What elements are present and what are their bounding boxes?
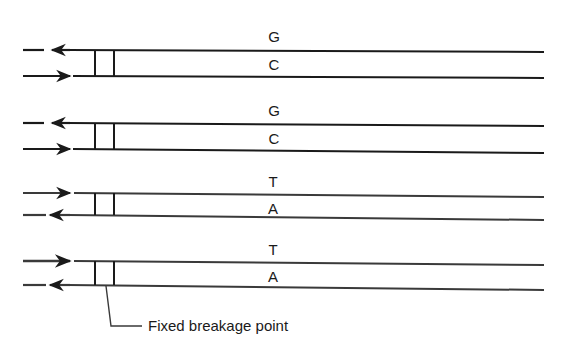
breakage-point-label: Fixed breakage point (148, 317, 289, 334)
strand-line (73, 149, 544, 153)
top-base-label: T (268, 173, 277, 190)
bottom-base-label: A (268, 200, 278, 217)
strand-line (68, 285, 544, 290)
strand-pair-3: T A (23, 173, 544, 220)
bottom-strand (23, 149, 544, 153)
strand-line (74, 193, 544, 197)
top-base-label: G (268, 28, 280, 45)
bottom-strand (23, 76, 544, 78)
bottom-base-label: C (269, 56, 280, 73)
strand-line (68, 50, 544, 52)
top-strand (23, 123, 544, 126)
bottom-base-label: C (269, 130, 280, 147)
dna-breakage-diagram: G C G C T A (0, 0, 568, 356)
top-strand (23, 193, 544, 197)
strand-pair-1: G C (23, 28, 544, 78)
bottom-strand (23, 285, 544, 290)
strand-line (68, 123, 544, 126)
strand-line (68, 215, 544, 220)
strand-line (73, 76, 544, 78)
strand-pair-2: G C (23, 102, 544, 153)
strand-line (74, 261, 544, 265)
top-strand (23, 261, 544, 265)
leader-line (106, 286, 142, 326)
top-strand (23, 50, 544, 52)
top-base-label: G (268, 102, 280, 119)
bottom-base-label: A (268, 268, 278, 285)
top-base-label: T (268, 241, 277, 258)
breakage-point-annotation: Fixed breakage point (106, 286, 289, 334)
bottom-strand (23, 215, 544, 220)
strand-pair-4: T A (23, 241, 544, 290)
